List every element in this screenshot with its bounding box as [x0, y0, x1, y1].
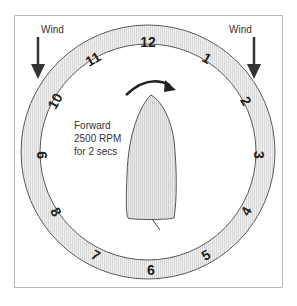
clock-number-9: 9 [34, 151, 50, 159]
clock-number-12: 12 [140, 34, 156, 50]
instruction-line-1: Forward [74, 120, 111, 131]
wind-left-label: Wind [41, 24, 64, 35]
instruction-line-2: 2500 RPM [74, 133, 121, 144]
clock-number-6: 6 [147, 262, 155, 278]
wind-right-label: Wind [229, 24, 252, 35]
instruction-line-3: for 2 secs [74, 146, 117, 157]
clock-diagram-final: 12 1 2 3 4 5 6 7 8 9 10 11 Wind Wind For… [0, 0, 297, 306]
clock-number-3: 3 [251, 151, 267, 159]
